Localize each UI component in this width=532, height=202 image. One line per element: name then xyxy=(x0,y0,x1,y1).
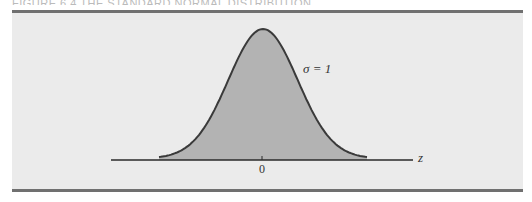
z-axis-label: z xyxy=(417,150,423,165)
zero-tick-label: 0 xyxy=(259,162,265,176)
curve-area-fill xyxy=(159,29,367,160)
normal-curve-chart: σ = 1 z 0 xyxy=(0,0,532,202)
sigma-label: σ = 1 xyxy=(303,61,331,76)
